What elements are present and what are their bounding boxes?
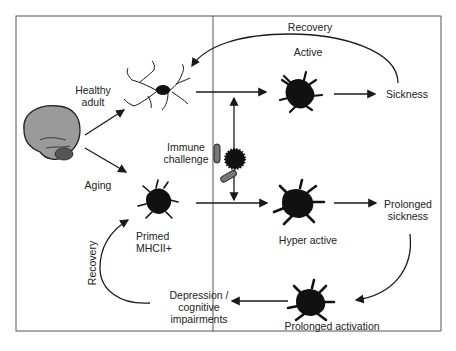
label-depression-cognitive: Depression / cognitive impairments xyxy=(166,289,232,325)
label-immune-challenge: Immune challenge xyxy=(160,141,212,165)
ramified-microglia-icon xyxy=(124,61,190,110)
brain-icon xyxy=(24,106,80,160)
label-primed-mhcii: Primed MHCII+ xyxy=(136,230,180,254)
label-recovery-top: Recovery xyxy=(280,21,340,33)
figure-border-right xyxy=(16,16,213,331)
figure-border xyxy=(16,16,213,331)
hyper-active-microglia-icon xyxy=(274,180,324,224)
label-prolonged-activation: Prolonged activation xyxy=(280,320,384,332)
label-sickness: Sickness xyxy=(382,88,432,100)
label-prolonged-sickness: Prolonged sickness xyxy=(378,198,438,222)
primed-microglia-icon xyxy=(138,180,178,218)
label-active: Active xyxy=(290,46,326,58)
label-recovery-left: Recovery xyxy=(86,233,98,293)
label-hyper-active: Hyper active xyxy=(276,234,340,246)
label-aging: Aging xyxy=(82,179,114,191)
pathogen-icon xyxy=(225,149,245,169)
label-healthy-adult: Healthy adult xyxy=(72,84,114,108)
activated-microglia-icon xyxy=(280,72,322,112)
prolonged-activation-microglia-icon xyxy=(288,280,334,320)
